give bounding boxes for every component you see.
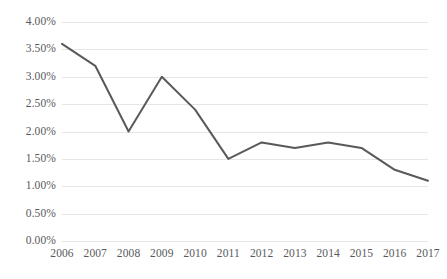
gridline (62, 241, 428, 242)
y-axis-tick-label: 0.00% (26, 235, 56, 247)
x-axis-tick-label: 2016 (383, 248, 406, 260)
y-axis-tick-label: 3.00% (26, 71, 56, 83)
x-axis: 2006200720082009201020112012201320142015… (62, 248, 428, 268)
line-chart: 0.00%0.50%1.00%1.50%2.00%2.50%3.00%3.50%… (0, 0, 447, 279)
x-axis-tick-label: 2010 (183, 248, 206, 260)
y-axis-tick-label: 1.50% (26, 153, 56, 165)
x-axis-tick-label: 2013 (283, 248, 306, 260)
x-axis-tick-label: 2009 (150, 248, 173, 260)
x-axis-tick-label: 2012 (250, 248, 273, 260)
y-axis-tick-label: 1.00% (26, 180, 56, 192)
y-axis-tick-label: 3.50% (26, 43, 56, 55)
y-axis-tick-label: 0.50% (26, 208, 56, 220)
x-axis-tick-label: 2017 (416, 248, 439, 260)
y-axis: 0.00%0.50%1.00%1.50%2.00%2.50%3.00%3.50%… (0, 0, 56, 279)
series-layer (62, 22, 428, 241)
x-axis-tick-label: 2007 (84, 248, 107, 260)
y-axis-tick-label: 4.00% (26, 16, 56, 28)
x-axis-tick-label: 2006 (50, 248, 73, 260)
plot-area (62, 22, 428, 241)
x-axis-tick-label: 2015 (350, 248, 373, 260)
y-axis-tick-label: 2.50% (26, 98, 56, 110)
x-axis-tick-label: 2008 (117, 248, 140, 260)
series-line (62, 44, 428, 181)
x-axis-tick-label: 2011 (217, 248, 240, 260)
y-axis-tick-label: 2.00% (26, 126, 56, 138)
x-axis-tick-label: 2014 (316, 248, 339, 260)
